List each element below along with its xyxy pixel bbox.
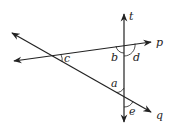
- diagram-canvas: t p q b d c a e: [0, 0, 169, 130]
- line-label-t: t: [129, 10, 134, 23]
- line-label-q: q: [156, 109, 163, 122]
- angle-label-b: b: [111, 51, 118, 64]
- angle-label-d: d: [133, 51, 140, 64]
- line-label-p: p: [156, 36, 163, 49]
- line-p: [14, 42, 151, 61]
- angle-label-c: c: [64, 52, 70, 65]
- angle-label-a: a: [111, 77, 118, 90]
- angle-label-e: e: [129, 105, 136, 118]
